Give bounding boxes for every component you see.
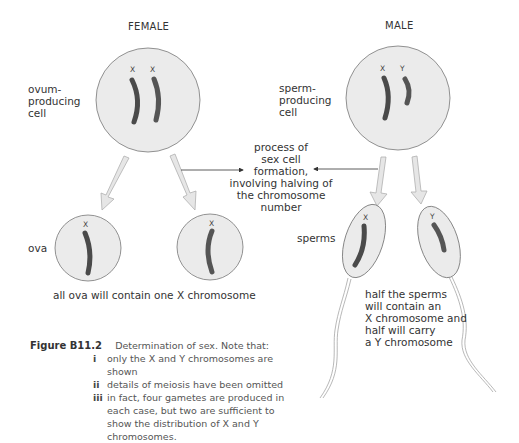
chromosome-label: X bbox=[150, 65, 155, 74]
caption-note: iiiin fact, four gametes are produced in… bbox=[93, 391, 302, 443]
sperm-producing-cell bbox=[346, 46, 450, 150]
male-heading: MALE bbox=[385, 20, 414, 31]
ovum-producing-cell-label: ovum- producing cell bbox=[28, 83, 81, 119]
chromosome-label: X bbox=[363, 213, 368, 222]
process-description: process of sex cell formation, involving… bbox=[222, 141, 340, 213]
female-heading: FEMALE bbox=[128, 21, 169, 32]
ova-note: all ova will contain one X chromosome bbox=[53, 289, 256, 301]
chromosome-label: X bbox=[83, 220, 88, 229]
sperm-note: half the sperms will contain an X chromo… bbox=[365, 288, 467, 348]
caption-notes: ionly the X and Y chromosomes are shown … bbox=[93, 352, 302, 443]
caption-note: ionly the X and Y chromosomes are shown bbox=[93, 352, 302, 378]
caption-text: Determination of sex. Note that: bbox=[115, 340, 269, 351]
figure-caption: Figure B11.2 Determination of sex. Note … bbox=[30, 334, 269, 353]
chromosome-label: X bbox=[380, 64, 385, 73]
ova-label: ova bbox=[28, 242, 47, 254]
male-division-arrow-left bbox=[370, 157, 387, 206]
female-division-arrow-right bbox=[170, 154, 196, 210]
sperm-tail bbox=[320, 278, 348, 398]
chromosome-label: Y bbox=[400, 64, 405, 73]
chromosome-label: X bbox=[209, 219, 214, 228]
chromosome-label: Y bbox=[430, 212, 435, 221]
sperms-label: sperms bbox=[297, 232, 335, 244]
chromosome-label: X bbox=[130, 65, 135, 74]
ovum-producing-cell bbox=[96, 48, 200, 152]
male-division-arrow-right bbox=[411, 156, 427, 204]
female-division-arrow-left bbox=[101, 156, 129, 210]
caption-note: iidetails of meiosis have been omitted bbox=[93, 378, 302, 391]
figure-label: Figure B11.2 bbox=[30, 340, 102, 351]
sperm-producing-cell-label: sperm- producing cell bbox=[279, 82, 332, 118]
